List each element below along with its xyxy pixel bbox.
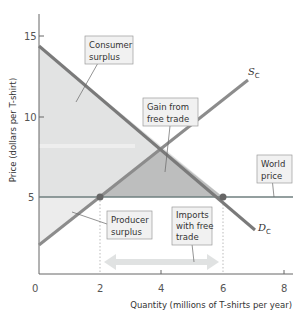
x-tick-label-6: 6	[220, 283, 226, 294]
gain-from-trade-label: Gain from free trade	[143, 98, 198, 126]
x-tick-label-8: 8	[281, 283, 287, 294]
consumer-surplus-label: Consumer surplus	[85, 36, 133, 64]
svg-text:Consumer: Consumer	[89, 40, 133, 50]
svg-text:Gain from: Gain from	[147, 102, 189, 112]
svg-text:surplus: surplus	[111, 227, 142, 237]
x-tick-label-2: 2	[97, 283, 103, 294]
producer-surplus-label: Producer surplus	[107, 211, 152, 239]
point-domestic-supply	[97, 194, 104, 201]
svg-text:trade: trade	[176, 232, 199, 242]
svg-text:surplus: surplus	[89, 52, 120, 62]
svg-text:Producer: Producer	[111, 215, 149, 225]
y-axis-label: Price (dollars per T-shirt)	[8, 78, 18, 183]
x-tick-label-4: 4	[158, 283, 164, 294]
point-quantity-demanded	[220, 194, 227, 201]
svg-text:free trade: free trade	[147, 114, 189, 124]
y-tick-label-10: 10	[24, 112, 37, 123]
demand-label: DC	[257, 222, 271, 236]
imports-arrow	[104, 254, 219, 270]
world-price-label: World price	[257, 155, 292, 183]
svg-text:price: price	[261, 171, 282, 181]
svg-text:Imports: Imports	[176, 210, 209, 220]
svg-text:World: World	[261, 159, 285, 169]
y-tick-label-15: 15	[24, 31, 37, 42]
supply-label: SC	[248, 66, 260, 80]
imports-label: Imports with free trade	[172, 207, 214, 245]
y-tick-label-5: 5	[28, 192, 34, 203]
highlight-band	[39, 144, 135, 148]
chart-canvas: 15 10 5 0 2 4 6 8 Quantity (millions of …	[0, 0, 306, 313]
leader-producer-surplus	[72, 212, 107, 224]
x-axis-label: Quantity (millions of T-shirts per year)	[130, 300, 292, 310]
x-tick-label-0: 0	[32, 283, 38, 294]
svg-text:with free: with free	[176, 221, 214, 231]
